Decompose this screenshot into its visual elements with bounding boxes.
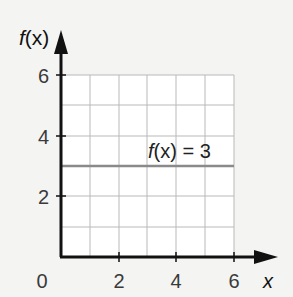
- x-axis-label: x: [262, 270, 274, 292]
- chart: 6 4 2 0 2 4 6 f(x) x f(x) = 3: [0, 0, 293, 297]
- line-annotation: f(x) = 3: [148, 140, 211, 162]
- x-tick-4: 4: [170, 270, 181, 292]
- y-tick-4: 4: [38, 126, 49, 148]
- y-axis-label: f(x): [19, 26, 49, 49]
- x-tick-0: 0: [36, 270, 47, 292]
- y-tick-2: 2: [38, 186, 49, 208]
- x-axis-arrow-icon: [254, 250, 278, 264]
- y-axis-arrow-icon: [54, 30, 68, 54]
- x-tick-6: 6: [228, 270, 239, 292]
- x-tick-2: 2: [113, 270, 124, 292]
- y-tick-6: 6: [38, 65, 49, 87]
